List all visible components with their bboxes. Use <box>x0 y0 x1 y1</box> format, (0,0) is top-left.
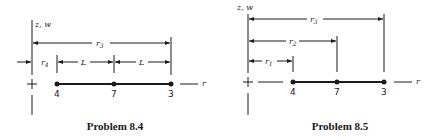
dimension-label-r3: r3 <box>310 15 318 25</box>
dimension-label-r2: r2 <box>289 37 297 47</box>
caption: Problem 8.5 <box>312 120 369 132</box>
node-4 <box>55 82 60 87</box>
figure-problem-8-5: z, w r3 r2 r1 <box>236 3 421 132</box>
dimension-r3: r3 <box>249 15 383 25</box>
origin-plus-icon <box>27 79 37 89</box>
node-4 <box>291 80 296 85</box>
dimension-label-L: L <box>138 58 144 67</box>
r-axis-label: r <box>416 77 421 86</box>
node-7 <box>335 80 340 85</box>
dimension-label-r1: r1 <box>265 57 273 67</box>
r-axis-label: r <box>202 79 207 88</box>
diagram-canvas: z, w r3 r4 L L <box>0 0 440 140</box>
dimension-r4: r4 <box>17 58 49 68</box>
dimension-L-second: L <box>115 58 170 67</box>
node-7 <box>112 82 117 87</box>
node-3 <box>382 80 387 85</box>
node-label: 3 <box>168 89 174 99</box>
dimension-r2: r2 <box>249 37 336 47</box>
dimension-r1: r1 <box>249 57 292 67</box>
node-3 <box>169 82 174 87</box>
dimension-r3: r3 <box>33 39 170 49</box>
node-label: 3 <box>381 87 387 97</box>
dimension-label-r3: r3 <box>96 39 104 49</box>
dimension-label-r4: r4 <box>41 58 49 68</box>
node-label: 4 <box>54 89 60 99</box>
origin-plus-icon <box>243 77 253 87</box>
node-label: 7 <box>334 87 340 97</box>
node-label: 7 <box>111 89 117 99</box>
axis-label: z, w <box>236 3 253 12</box>
dimension-L-first: L <box>58 58 113 67</box>
dimension-label-L: L <box>80 58 86 67</box>
axis-label: z, w <box>34 20 51 29</box>
caption: Problem 8.4 <box>87 120 144 132</box>
figure-problem-8-4: z, w r3 r4 L L <box>17 20 207 132</box>
node-label: 4 <box>290 87 296 97</box>
